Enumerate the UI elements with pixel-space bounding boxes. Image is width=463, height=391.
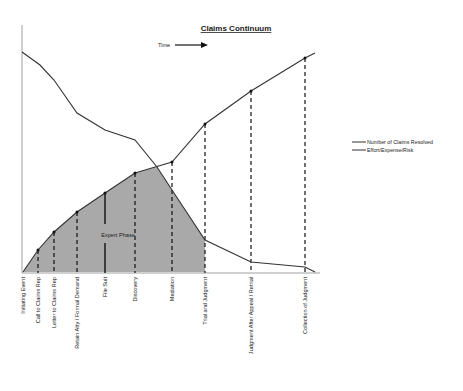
tick-label: Retain Atty / Formal Demand <box>74 277 80 349</box>
legend-label-resolved: Number of Claims Resolved <box>367 139 433 145</box>
shaded-area <box>23 167 205 272</box>
time-arrow-head <box>201 42 208 48</box>
chart-title: Claims Continuum <box>201 24 272 33</box>
x-tick-labels: Initiating Event Call to Claims Rep Lett… <box>20 277 308 355</box>
legend-label-effort: Effort/Expense/Risk <box>367 147 414 153</box>
expert-phase-label: Expert Phase <box>101 232 135 238</box>
time-annotation: Time <box>158 42 170 48</box>
tick-label: Collection of Judgment <box>302 277 308 334</box>
tick-label: Letter to Claims Rep <box>51 277 57 328</box>
tick-label: Initiating Event <box>20 277 26 314</box>
tick-label: Call to Claims Rep <box>35 277 41 323</box>
tick-label: Trial and Judgment <box>202 277 208 325</box>
tick-label: Mediation <box>169 277 175 301</box>
tick-label: Judgment After Appeal / Retrial <box>248 277 254 354</box>
tick-label: Discovery <box>132 277 138 302</box>
tick-label: File Suit <box>102 277 108 298</box>
claims-continuum-chart: Claims Continuum Time Expert Phase Numbe… <box>0 0 463 391</box>
